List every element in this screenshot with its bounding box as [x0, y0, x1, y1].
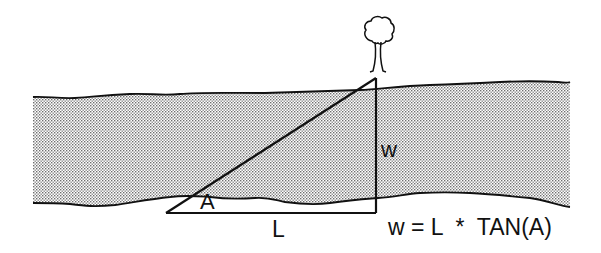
angle-label: A [200, 189, 215, 214]
diagram-canvas: A L w w = L * TAN(A) [0, 0, 601, 253]
tree-icon [365, 17, 394, 72]
width-label: w [380, 137, 397, 162]
formula-label: w = L * TAN(A) [387, 214, 552, 240]
river [33, 81, 570, 207]
baseline-label: L [272, 216, 285, 242]
